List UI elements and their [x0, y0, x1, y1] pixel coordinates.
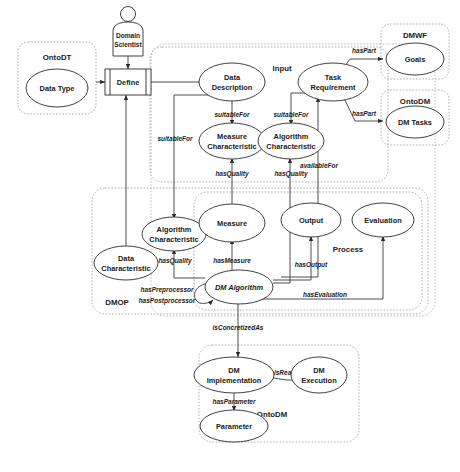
node-algorithm-characteristic-dmop[interactable]: Algorithm Characteristic [142, 217, 206, 251]
node-algorithm-characteristic-input-shape [258, 123, 324, 159]
edge-label-haspart-goals: hasPart [352, 47, 377, 54]
node-task-requirement-label-2: Requirement [310, 83, 356, 92]
node-algorithm-characteristic-dmop-label-1: Algorithm [157, 225, 192, 234]
node-data-type-label: Data Type [40, 84, 75, 93]
node-data-characteristic-label-1: Data [118, 254, 135, 263]
node-dm-algorithm-label: DM Algorithm [215, 283, 264, 292]
ontology-diagram: OntoDT Input DMWF OntoDM DMOP Process On… [0, 0, 460, 472]
group-dmop-label: DMOP [105, 298, 128, 307]
node-evaluation-label: Evaluation [364, 216, 402, 225]
group-input-label: Input [272, 64, 291, 73]
node-task-requirement[interactable]: Task Requirement [298, 63, 368, 101]
node-dm-execution[interactable]: DM Execution [291, 357, 347, 393]
edge-label-hasevaluation: hasEvaluation [303, 291, 347, 298]
node-data-description[interactable]: Data Description [199, 63, 265, 101]
edge-label-isconcretizedas: isConcretizedAs [213, 324, 264, 331]
node-data-characteristic[interactable]: Data Characteristic [94, 246, 158, 280]
edge-label-suitablefor-ta: suitableFor [273, 111, 309, 118]
node-data-description-label-1: Data [224, 73, 241, 82]
node-output-label: Output [299, 216, 324, 225]
edge-label-suitablefor-define: suitableFor [157, 135, 193, 142]
node-measure-label: Measure [217, 219, 247, 228]
figure-canvas: OntoDT Input DMWF OntoDM DMOP Process On… [0, 0, 460, 472]
link-dmalgorithm-output [273, 236, 311, 280]
node-output[interactable]: Output [281, 203, 341, 237]
edge-label-haspreprocessor: hasPreprocessor [140, 286, 194, 294]
node-measure-characteristic-label-2: Characteristic [207, 142, 256, 151]
node-dm-implementation-label-2: Implementation [207, 376, 262, 385]
edge-label-availablefor: availableFor [300, 162, 338, 169]
edge-label-haspostprocessor: hasPostprocessor [139, 297, 196, 305]
node-algorithm-characteristic-input-label-1: Algorithm [274, 132, 309, 141]
group-ontodm-outer [151, 44, 435, 316]
actor-body-icon [113, 22, 143, 56]
group-dmwf-label: DMWF [403, 31, 427, 40]
node-dm-implementation-label-1: DM [228, 366, 240, 375]
node-dm-execution-label-1: DM [313, 366, 325, 375]
node-algorithm-characteristic-input[interactable]: Algorithm Characteristic [258, 123, 324, 159]
node-parameter-label: Parameter [216, 422, 252, 431]
node-data-characteristic-label-2: Characteristic [101, 264, 150, 273]
node-data-characteristic-shape [94, 246, 158, 280]
node-dm-execution-label-2: Execution [301, 376, 337, 385]
process-box-define[interactable]: Define [105, 69, 151, 95]
edge-label-suitablefor-md: suitableFor [214, 111, 250, 118]
node-dm-tasks[interactable]: DM Tasks [386, 106, 444, 138]
edge-label-hasquality-ac: hasQuality [274, 170, 308, 178]
node-measure-characteristic-label-1: Measure [217, 132, 247, 141]
node-dm-implementation[interactable]: DM Implementation [194, 357, 274, 393]
node-data-description-shape [199, 63, 265, 101]
edge-label-hasmeasure: hasMeasure [213, 257, 251, 264]
node-goals-label: Goals [405, 55, 426, 64]
node-dm-tasks-label: DM Tasks [398, 118, 432, 127]
actor-head-icon [121, 7, 136, 22]
node-dm-execution-shape [291, 357, 347, 393]
node-goals[interactable]: Goals [386, 43, 444, 75]
node-dm-implementation-shape [194, 357, 274, 393]
node-algorithm-characteristic-input-label-2: Characteristic [266, 142, 315, 151]
group-process-label: Process [333, 245, 364, 254]
node-task-requirement-label-1: Task [325, 73, 342, 82]
node-algorithm-characteristic-dmop-label-2: Characteristic [149, 235, 198, 244]
define-box-label: Define [117, 78, 140, 87]
node-evaluation[interactable]: Evaluation [352, 203, 414, 237]
node-algorithm-characteristic-dmop-shape [142, 217, 206, 251]
edge-label-haspart-tasks: hasPart [352, 110, 377, 117]
actor-domain-scientist[interactable]: Domain Scientist [113, 7, 143, 57]
edge-label-hasquality-dmop: hasQuality [158, 257, 192, 265]
group-ontodt-label: OntoDT [43, 53, 72, 62]
node-measure-characteristic[interactable]: Measure Characteristic [199, 123, 265, 159]
node-task-requirement-shape [298, 63, 368, 101]
node-measure-characteristic-shape [199, 123, 265, 159]
edge-label-hasquality-mc: hasQuality [215, 170, 249, 178]
actor-label-line2: Scientist [114, 41, 142, 48]
actor-label-line1: Domain [116, 32, 140, 39]
edge-label-hasparameter: hasParameter [213, 398, 256, 405]
node-data-description-label-2: Description [212, 83, 253, 92]
edge-label-hasoutput: hasOutput [295, 261, 328, 269]
node-measure[interactable]: Measure [199, 204, 265, 242]
node-dm-algorithm[interactable]: DM Algorithm [205, 270, 273, 304]
node-parameter[interactable]: Parameter [200, 410, 268, 442]
node-data-type[interactable]: Data Type [26, 69, 88, 107]
group-ontodm-tasks-label: OntoDM [400, 97, 430, 106]
